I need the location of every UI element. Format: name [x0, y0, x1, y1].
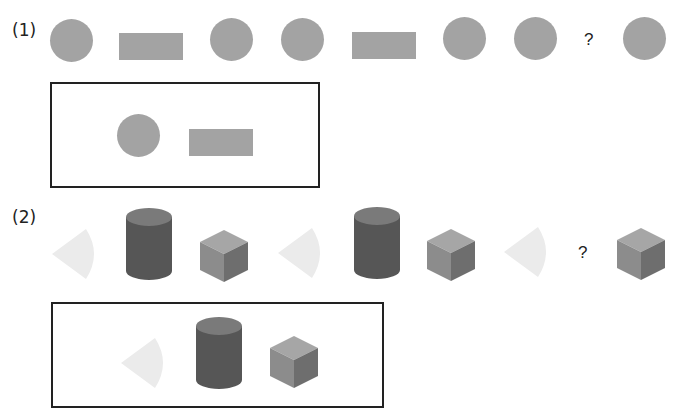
circle-shape: [50, 19, 93, 62]
circle-shape: [281, 18, 324, 61]
puzzle-1-options-box[interactable]: [50, 82, 320, 188]
rectangle-shape: [352, 32, 416, 59]
circle-shape: [443, 17, 486, 60]
puzzle-1-label: (1): [12, 20, 36, 40]
rectangle-shape: [119, 33, 183, 60]
cylinder-shape: [352, 206, 402, 281]
option-rectangle-shape: [189, 129, 253, 156]
circle-shape: [623, 17, 666, 60]
missing-item-question-mark: ?: [578, 243, 587, 263]
cube-shape: [615, 226, 667, 282]
puzzle-2-label: (2): [12, 207, 36, 227]
circle-shape: [210, 18, 253, 61]
cone-shape: [502, 223, 552, 281]
cylinder-shape: [124, 207, 174, 282]
cube-shape: [425, 227, 477, 283]
option-cube-shape: [268, 334, 320, 390]
circle-shape: [514, 17, 557, 60]
option-circle-shape: [117, 114, 160, 157]
cone-shape: [50, 225, 100, 283]
puzzle-2-options-box[interactable]: [51, 302, 384, 408]
cube-shape: [198, 228, 250, 284]
cone-shape: [276, 224, 326, 282]
option-cylinder-shape: [194, 316, 244, 391]
option-cone-shape: [119, 334, 169, 392]
missing-item-question-mark: ?: [584, 30, 593, 50]
